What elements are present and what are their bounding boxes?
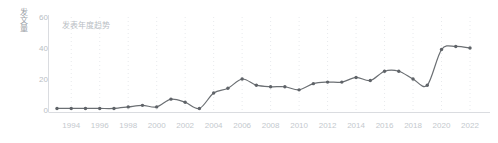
data-point-marker[interactable] xyxy=(212,91,215,94)
data-point-marker[interactable] xyxy=(440,48,443,51)
data-point-marker[interactable] xyxy=(269,85,272,88)
plot-area xyxy=(0,0,498,143)
data-point-marker[interactable] xyxy=(454,45,457,48)
data-point-marker[interactable] xyxy=(127,105,130,108)
data-point-marker[interactable] xyxy=(226,87,229,90)
data-point-marker[interactable] xyxy=(411,77,414,80)
publication-trend-chart: 发文量 发表年度趋势 0204060 199419961998200020022… xyxy=(0,0,498,143)
data-point-marker[interactable] xyxy=(297,88,300,91)
data-point-marker[interactable] xyxy=(84,107,87,110)
series-line-publications xyxy=(57,46,470,109)
data-point-marker[interactable] xyxy=(55,107,58,110)
data-point-marker[interactable] xyxy=(98,107,101,110)
data-point-marker[interactable] xyxy=(426,84,429,87)
data-point-marker[interactable] xyxy=(155,105,158,108)
data-point-marker[interactable] xyxy=(468,46,471,49)
data-point-marker[interactable] xyxy=(383,70,386,73)
data-point-marker[interactable] xyxy=(397,70,400,73)
data-point-marker[interactable] xyxy=(169,97,172,100)
data-point-marker[interactable] xyxy=(312,82,315,85)
data-point-marker[interactable] xyxy=(70,107,73,110)
data-point-marker[interactable] xyxy=(326,80,329,83)
data-point-marker[interactable] xyxy=(240,77,243,80)
data-point-marker[interactable] xyxy=(340,80,343,83)
data-point-marker[interactable] xyxy=(354,76,357,79)
data-point-marker[interactable] xyxy=(255,84,258,87)
data-point-marker[interactable] xyxy=(283,85,286,88)
data-point-marker[interactable] xyxy=(183,101,186,104)
data-point-marker[interactable] xyxy=(198,107,201,110)
data-point-marker[interactable] xyxy=(141,104,144,107)
data-point-marker[interactable] xyxy=(112,107,115,110)
data-point-marker[interactable] xyxy=(369,79,372,82)
